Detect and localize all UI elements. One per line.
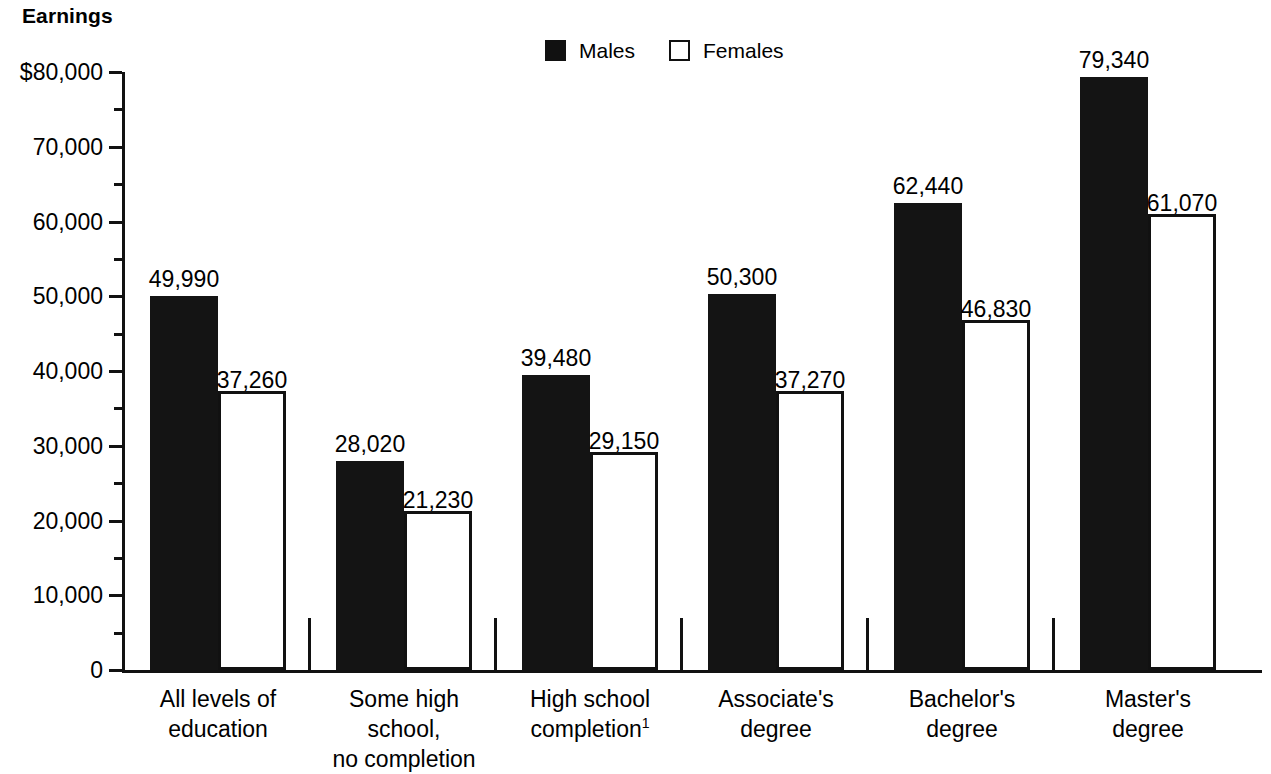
y-tick-label: 20,000 [33, 507, 103, 534]
y-tick-label: 50,000 [33, 283, 103, 310]
bar-females[interactable]: 61,070 [1148, 214, 1216, 670]
y-tick-major [109, 71, 122, 74]
group-separator-tick [866, 618, 869, 670]
legend-label-females: Females [703, 40, 784, 61]
footnote-marker: 1 [642, 715, 650, 731]
bar-males[interactable]: 28,020 [336, 461, 404, 670]
y-tick-minor [114, 333, 122, 336]
group-separator-tick [680, 618, 683, 670]
y-tick-minor [114, 258, 122, 261]
y-tick-label: 70,000 [33, 133, 103, 160]
chart-legend: Males Females [545, 40, 784, 61]
y-tick-major [109, 669, 122, 672]
y-tick-major [109, 370, 122, 373]
x-axis-line [122, 670, 1262, 673]
bar-females[interactable]: 37,260 [218, 391, 286, 670]
bar-males[interactable]: 50,300 [708, 294, 776, 670]
legend-label-males: Males [579, 40, 635, 61]
legend-item-males[interactable]: Males [545, 40, 635, 61]
y-tick-label: 10,000 [33, 582, 103, 609]
y-tick-minor [114, 407, 122, 410]
y-tick-label: 30,000 [33, 432, 103, 459]
bar-value-label: 62,440 [893, 173, 963, 199]
chart-axis-title: Earnings [22, 4, 113, 28]
bar-value-label: 39,480 [521, 345, 591, 371]
y-axis-line [122, 72, 125, 670]
bar-males[interactable]: 79,340 [1080, 77, 1148, 670]
category-label: Bachelor'sdegree [869, 684, 1055, 744]
legend-item-females[interactable]: Females [669, 40, 784, 61]
bar-males[interactable]: 39,480 [522, 375, 590, 670]
legend-swatch-females-icon [669, 40, 690, 61]
bar-females[interactable]: 37,270 [776, 391, 844, 670]
category-label: Master'sdegree [1055, 684, 1241, 744]
bar-value-label: 29,150 [589, 428, 659, 454]
y-tick-minor [114, 557, 122, 560]
group-separator-tick [308, 618, 311, 670]
y-tick-major [109, 221, 122, 224]
group-separator-tick [494, 618, 497, 670]
y-tick-minor [114, 183, 122, 186]
bar-value-label: 37,270 [775, 367, 845, 393]
bar-value-label: 79,340 [1079, 47, 1149, 73]
category-label: Some high school,no completion [311, 684, 497, 774]
bar-value-label: 37,260 [217, 367, 287, 393]
plot-area: $80,00070,00060,00050,00040,00030,00020,… [122, 72, 1262, 670]
bar-males[interactable]: 62,440 [894, 203, 962, 670]
bar-value-label: 61,070 [1147, 190, 1217, 216]
bar-females[interactable]: 21,230 [404, 511, 472, 670]
legend-swatch-males-icon [545, 40, 566, 61]
y-tick-major [109, 146, 122, 149]
category-label: All levels ofeducation [125, 684, 311, 744]
category-label: High schoolcompletion1 [497, 684, 683, 744]
y-tick-minor [114, 482, 122, 485]
y-tick-label: $80,000 [20, 59, 103, 86]
category-label: Associate'sdegree [683, 684, 869, 744]
y-tick-label: 40,000 [33, 358, 103, 385]
y-tick-major [109, 445, 122, 448]
y-tick-major [109, 520, 122, 523]
bar-females[interactable]: 29,150 [590, 452, 658, 670]
bar-value-label: 46,830 [961, 296, 1031, 322]
bar-value-label: 21,230 [403, 487, 473, 513]
bar-value-label: 28,020 [335, 431, 405, 457]
group-separator-tick [1052, 618, 1055, 670]
y-tick-minor [114, 632, 122, 635]
y-tick-label: 0 [90, 657, 103, 684]
y-tick-minor [114, 108, 122, 111]
y-tick-major [109, 594, 122, 597]
bar-value-label: 49,990 [149, 266, 219, 292]
bar-males[interactable]: 49,990 [150, 296, 218, 670]
y-tick-major [109, 295, 122, 298]
y-tick-label: 60,000 [33, 208, 103, 235]
bar-value-label: 50,300 [707, 264, 777, 290]
bar-females[interactable]: 46,830 [962, 320, 1030, 670]
